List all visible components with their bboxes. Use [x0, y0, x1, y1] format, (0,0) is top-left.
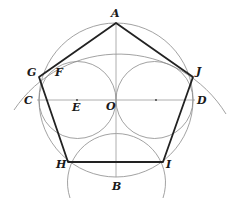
label-h: H [55, 158, 67, 171]
label-a: A [110, 7, 120, 20]
pentagon-construction-diagram: A B C D O E F G H I J [0, 0, 232, 202]
label-f: F [54, 66, 64, 79]
label-o: O [106, 100, 116, 113]
label-c: C [24, 94, 33, 107]
label-j: J [194, 65, 202, 78]
label-g: G [27, 66, 36, 79]
label-i: I [165, 158, 172, 171]
label-b: B [111, 180, 121, 193]
tick-marker [155, 99, 157, 101]
label-e: E [71, 101, 81, 114]
label-d: D [196, 94, 207, 107]
arc-centered-b-large [14, 54, 226, 114]
